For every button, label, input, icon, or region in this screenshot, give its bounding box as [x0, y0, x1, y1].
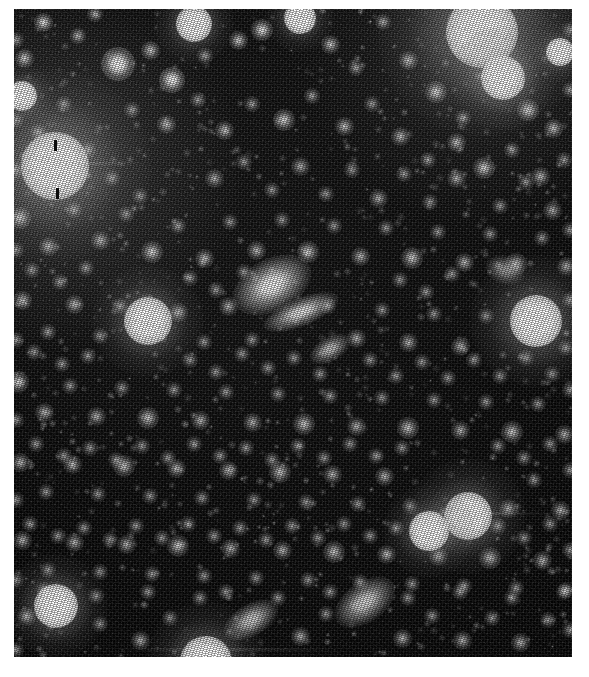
field-star [196, 568, 211, 583]
faint-source [218, 406, 223, 411]
faint-source [522, 509, 525, 512]
faint-source [251, 191, 257, 197]
field-star [24, 262, 39, 277]
faint-source [301, 227, 306, 232]
faint-source [392, 117, 396, 121]
faint-source [360, 62, 366, 68]
faint-source [551, 501, 556, 506]
faint-source [97, 378, 101, 382]
field-star [420, 152, 435, 167]
faint-source [263, 425, 268, 430]
field-star [399, 333, 418, 352]
faint-source [240, 477, 244, 481]
field-star [102, 532, 117, 547]
faint-source [272, 521, 275, 524]
faint-source [304, 68, 311, 75]
faint-source [237, 100, 244, 107]
faint-source [284, 306, 288, 310]
faint-source [256, 477, 264, 485]
faint-source [168, 524, 176, 532]
faint-source [158, 439, 164, 445]
faint-source [94, 42, 98, 46]
faint-source [250, 360, 256, 366]
faint-source [456, 149, 461, 154]
faint-source [72, 532, 77, 537]
faint-source [333, 270, 341, 278]
faint-source [150, 136, 156, 142]
faint-source [173, 325, 176, 328]
faint-source [221, 24, 225, 28]
faint-source [142, 153, 147, 158]
faint-source [198, 261, 206, 269]
field-star [82, 440, 97, 455]
faint-source [360, 506, 365, 511]
faint-source [203, 62, 210, 69]
faint-source [403, 226, 408, 231]
faint-source [29, 522, 35, 528]
faint-source [482, 513, 488, 519]
faint-source [505, 611, 509, 615]
faint-source [305, 319, 311, 325]
faint-source [19, 339, 24, 344]
faint-source [481, 371, 488, 378]
faint-source [362, 384, 369, 391]
field-star [65, 295, 84, 314]
faint-source [233, 146, 241, 154]
faint-source [466, 198, 473, 205]
field-star [14, 412, 24, 427]
faint-source [206, 484, 212, 490]
faint-source [519, 131, 522, 134]
field-star [557, 257, 573, 276]
faint-source [479, 606, 484, 611]
faint-source [33, 188, 38, 193]
faint-source [96, 124, 103, 131]
faint-source [171, 493, 175, 497]
faint-source [290, 32, 293, 35]
faint-source [75, 446, 82, 453]
faint-source [163, 367, 169, 373]
faint-source [461, 448, 465, 452]
faint-source [330, 299, 333, 302]
faint-source [466, 539, 473, 546]
faint-source [356, 207, 363, 214]
faint-source [58, 82, 64, 88]
faint-source [29, 462, 35, 468]
faint-source [542, 72, 546, 76]
faint-source [504, 466, 509, 471]
faint-source [87, 355, 90, 358]
faint-source [198, 146, 204, 152]
field-star [229, 31, 248, 50]
faint-source [494, 613, 498, 617]
faint-source [81, 571, 87, 577]
faint-source [161, 498, 169, 506]
field-star [499, 499, 518, 518]
faint-source [351, 544, 359, 552]
faint-source [382, 116, 387, 121]
field-star [534, 230, 549, 245]
faint-source [419, 42, 424, 47]
faint-source [61, 43, 68, 50]
field-star [562, 22, 572, 37]
faint-source [105, 52, 112, 59]
faint-source [179, 526, 183, 530]
faint-source [253, 539, 258, 544]
faint-source [515, 267, 519, 271]
faint-source [480, 624, 486, 630]
faint-source [135, 487, 140, 492]
faint-source [213, 265, 220, 272]
star-halo [146, 602, 266, 657]
faint-source [24, 302, 28, 306]
faint-source [306, 212, 310, 216]
faint-source [383, 87, 388, 92]
star-halo [410, 458, 526, 574]
faint-source [140, 601, 147, 608]
field-star [430, 224, 445, 239]
faint-source [376, 518, 379, 521]
faint-source [45, 132, 49, 136]
field-star [326, 218, 341, 233]
field-star [14, 32, 24, 47]
faint-source [512, 197, 517, 202]
faint-source [406, 75, 410, 79]
field-star [508, 580, 523, 595]
faint-source [146, 396, 149, 399]
